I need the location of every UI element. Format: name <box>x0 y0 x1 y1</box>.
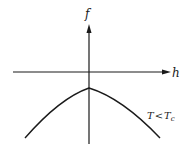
x-axis-arrowhead <box>162 70 171 75</box>
y-axis-arrowhead <box>87 24 92 33</box>
x-axis-label: h <box>172 66 180 80</box>
free-energy-diagram: f h T<Tc <box>0 0 191 148</box>
curve-label-op: < <box>155 110 163 121</box>
curve-label-sub: c <box>171 115 175 123</box>
curve-label: T<Tc <box>147 110 175 123</box>
free-energy-curve <box>25 88 160 138</box>
y-axis-label: f <box>84 7 92 21</box>
